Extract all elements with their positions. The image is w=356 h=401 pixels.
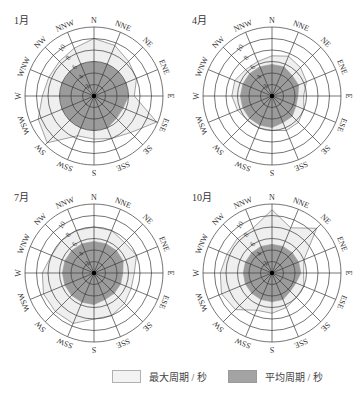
direction-label-wnw: WNW: [194, 232, 210, 255]
radial-tick-label: 10: [235, 220, 246, 231]
direction-label-e: E: [166, 271, 175, 276]
rose-panel-4: NNNENEENEEESESESSESSSWSWWSWWWNWNWNNW2468…: [192, 192, 353, 354]
panel-month-label: 4月: [192, 15, 207, 26]
direction-label-wsw: WSW: [16, 114, 32, 136]
direction-label-nnw: NNW: [232, 18, 254, 34]
direction-label-wnw: WNW: [194, 55, 210, 78]
panel-month-label: 1月: [14, 15, 29, 26]
direction-label-s: S: [270, 168, 274, 177]
radial-tick-label: 10: [57, 220, 68, 231]
direction-label-s: S: [92, 168, 96, 177]
legend-label-avg: 平均周期 / 秒: [265, 369, 323, 384]
direction-label-w: W: [14, 92, 23, 100]
direction-label-e: E: [344, 94, 353, 99]
direction-label-nnw: NNW: [232, 195, 254, 211]
rose-panel-3: NNNENEENEEESESESSESSSWSWWSWWWNWNWNNW2468…: [14, 192, 175, 354]
direction-label-sse: SSE: [293, 336, 309, 350]
direction-label-se: SE: [141, 320, 154, 333]
radial-tick-label: 10: [235, 43, 246, 54]
direction-label-wsw: WSW: [194, 291, 210, 313]
direction-label-se: SE: [319, 143, 332, 156]
rose-panel-1: NNNENEENEEESESESSESSSWSWWSWWWNWNWNNW2468…: [14, 15, 175, 177]
direction-label-w: W: [192, 269, 201, 277]
center-dot: [92, 94, 96, 98]
legend-item-max-period: 最大周期 / 秒: [112, 369, 207, 383]
direction-label-ese: ESE: [157, 117, 171, 134]
direction-label-wnw: WNW: [16, 232, 32, 255]
legend-item-avg-period: 平均周期 / 秒: [228, 369, 323, 383]
direction-label-se: SE: [319, 320, 332, 333]
direction-label-n: N: [269, 193, 275, 202]
center-dot: [270, 271, 274, 275]
wave-period-rose-figure: NNNENEENEEESESESSESSSWSWWSWWWNWNWNNW2468…: [0, 0, 356, 401]
direction-label-sse: SSE: [115, 336, 131, 350]
rose-panel-2: NNNENEENEEESESESSESSSWSWWSWWWNWNWNNW2468…: [192, 15, 353, 177]
panel-month-label: 10月: [192, 192, 212, 203]
direction-label-e: E: [344, 271, 353, 276]
center-dot: [92, 271, 96, 275]
direction-label-sse: SSE: [293, 159, 309, 173]
direction-label-nnw: NNW: [54, 18, 76, 34]
panel-month-label: 7月: [14, 192, 29, 203]
direction-label-e: E: [166, 94, 175, 99]
direction-label-n: N: [91, 16, 97, 25]
center-dot: [270, 94, 274, 98]
direction-label-se: SE: [141, 143, 154, 156]
direction-label-s: S: [92, 345, 96, 354]
direction-label-ese: ESE: [335, 294, 349, 311]
rose-panels: NNNENEENEEESESESSESSSWSWWSWWWNWNWNNW2468…: [14, 15, 353, 354]
legend-label-max: 最大周期 / 秒: [149, 369, 207, 384]
radial-tick-label: 10: [57, 43, 68, 54]
direction-label-ese: ESE: [335, 117, 349, 134]
direction-label-n: N: [269, 16, 275, 25]
direction-label-wnw: WNW: [16, 55, 32, 78]
direction-label-wsw: WSW: [16, 291, 32, 313]
direction-label-s: S: [270, 345, 274, 354]
legend-swatch-max: [112, 370, 141, 383]
direction-label-wsw: WSW: [194, 114, 210, 136]
direction-label-ese: ESE: [157, 294, 171, 311]
legend: 最大周期 / 秒 平均周期 / 秒: [0, 365, 356, 389]
direction-label-w: W: [14, 269, 23, 277]
direction-label-w: W: [192, 92, 201, 100]
direction-label-n: N: [91, 193, 97, 202]
direction-label-nnw: NNW: [54, 195, 76, 211]
direction-label-sse: SSE: [115, 159, 131, 173]
legend-swatch-avg: [228, 370, 257, 383]
